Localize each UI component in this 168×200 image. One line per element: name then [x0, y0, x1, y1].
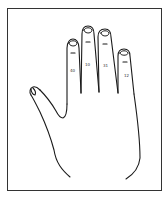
- finger-label-little: 12: [124, 73, 130, 78]
- finger-label-index: 40: [70, 68, 76, 73]
- finger-label-middle: 10: [85, 62, 91, 67]
- finger-label-ring: 31: [103, 63, 109, 68]
- hand-diagram: 40 10 31 12: [0, 0, 168, 200]
- hand-outline: [30, 26, 140, 179]
- hand-diagram-frame: 40 10 31 12: [0, 0, 168, 200]
